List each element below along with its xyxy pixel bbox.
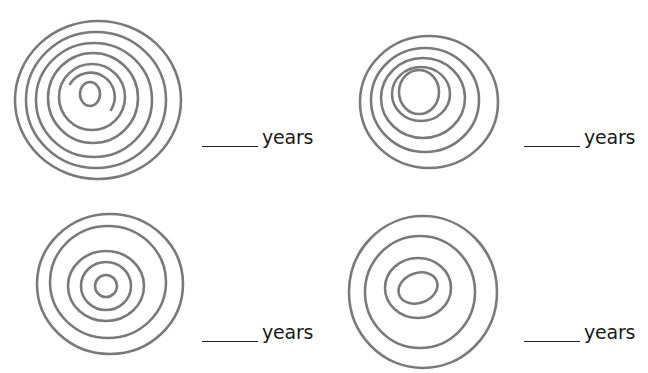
answer-blank-3[interactable] (202, 321, 258, 342)
answer-blank-2[interactable] (524, 126, 580, 147)
answer-field-3: years (202, 321, 313, 342)
unit-label-2: years (584, 127, 635, 147)
unit-label-4: years (584, 322, 635, 342)
answer-field-4: years (524, 321, 635, 342)
tree-ring-drawing-2 (355, 34, 505, 174)
unit-label-3: years (262, 322, 313, 342)
unit-label-1: years (262, 127, 313, 147)
answer-blank-1[interactable] (202, 126, 258, 147)
answer-blank-4[interactable] (524, 321, 580, 342)
answer-field-1: years (202, 126, 313, 147)
tree-ring-drawing-1 (8, 18, 188, 183)
tree-ring-drawing-4 (345, 212, 500, 372)
answer-field-2: years (524, 126, 635, 147)
tree-ring-drawing-3 (33, 210, 188, 360)
